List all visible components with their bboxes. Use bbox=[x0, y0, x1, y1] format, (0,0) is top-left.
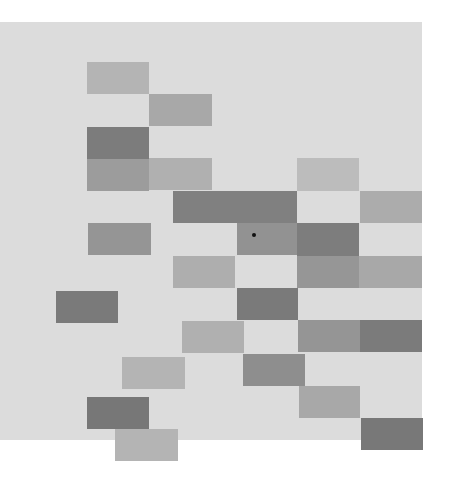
gray-block bbox=[115, 429, 178, 461]
gray-block bbox=[87, 62, 149, 94]
gray-block bbox=[87, 127, 149, 159]
gray-block bbox=[56, 291, 118, 323]
gray-block bbox=[360, 191, 422, 223]
gray-block bbox=[359, 256, 422, 288]
gray-block bbox=[237, 223, 297, 255]
gray-block bbox=[297, 223, 359, 256]
gray-block bbox=[122, 357, 185, 389]
gray-block bbox=[298, 320, 360, 352]
gray-block bbox=[297, 158, 359, 191]
gray-block bbox=[361, 418, 423, 450]
gray-block bbox=[182, 321, 244, 353]
dot-marker bbox=[252, 233, 256, 237]
gray-block bbox=[243, 354, 305, 386]
gray-block bbox=[149, 158, 212, 190]
block-mosaic-canvas bbox=[0, 0, 455, 487]
gray-block bbox=[88, 223, 151, 255]
gray-block bbox=[149, 94, 212, 126]
gray-block bbox=[87, 159, 149, 191]
gray-block bbox=[360, 320, 422, 352]
gray-block bbox=[297, 256, 359, 288]
gray-block bbox=[299, 386, 360, 418]
gray-block bbox=[87, 397, 149, 429]
gray-block bbox=[173, 191, 297, 223]
gray-block bbox=[237, 288, 298, 320]
gray-block bbox=[173, 256, 235, 288]
